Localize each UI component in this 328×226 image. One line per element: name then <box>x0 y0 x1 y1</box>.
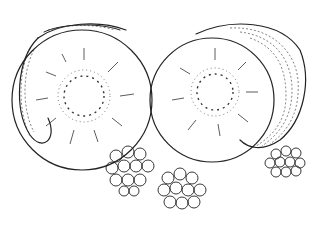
kiwi-raspberry-illustration <box>0 0 328 226</box>
raspberry-1 <box>106 146 154 196</box>
raspberry-3 <box>265 146 305 177</box>
kiwi-half-right <box>150 24 306 162</box>
kiwi-half-left <box>12 24 152 170</box>
raspberry-2 <box>158 168 206 209</box>
